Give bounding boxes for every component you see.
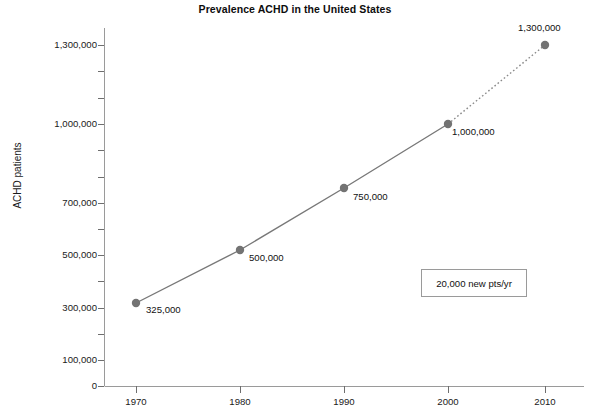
y-axis-ticks bbox=[98, 46, 104, 387]
chart-container: Prevalence ACHD in the United States ACH… bbox=[0, 0, 590, 419]
data-point-label-2010: 1,300,000 bbox=[518, 22, 561, 33]
data-point-marker bbox=[444, 120, 452, 128]
data-line-solid bbox=[136, 124, 448, 303]
data-point-marker bbox=[541, 41, 549, 49]
annotation-text: 20,000 new pts/yr bbox=[436, 278, 512, 289]
data-point-marker bbox=[132, 299, 140, 307]
annotation-box: 20,000 new pts/yr bbox=[421, 269, 527, 297]
data-point-label-1980: 500,000 bbox=[249, 252, 284, 263]
data-point-marker bbox=[236, 246, 244, 254]
data-point-label-1990: 750,000 bbox=[353, 191, 388, 202]
x-axis-ticks bbox=[137, 386, 546, 393]
data-point-marker bbox=[340, 184, 348, 192]
data-point-label-1970: 325,000 bbox=[146, 304, 181, 315]
data-point-label-2000: 1,000,000 bbox=[452, 126, 495, 137]
data-line-dotted-projection bbox=[448, 45, 545, 124]
plot-area bbox=[0, 0, 590, 419]
